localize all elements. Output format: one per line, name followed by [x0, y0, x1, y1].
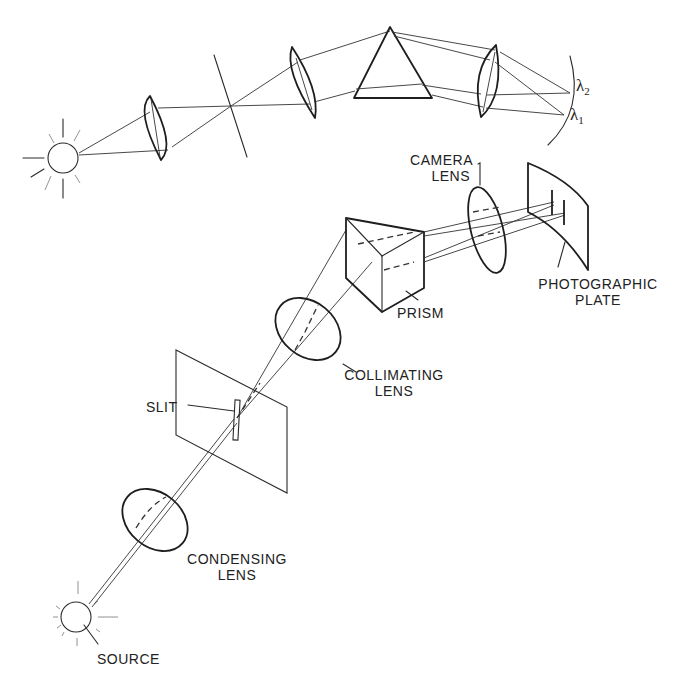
top-source-icon: [23, 119, 80, 198]
perspective-view: [53, 163, 588, 646]
slit-leader: [188, 405, 234, 411]
lambda-1-label: λ1: [570, 105, 584, 126]
collimating-lens: [263, 285, 353, 373]
top-focal-plane: [548, 56, 574, 145]
camera-lens-leader: [478, 163, 480, 185]
top-lens-2: [290, 47, 315, 118]
collimating-lens-label: COLLIMATING LENS: [335, 367, 453, 399]
slit-label: SLIT: [146, 399, 178, 415]
prism: [346, 218, 424, 312]
top-schematic: [23, 27, 574, 198]
photographic-plate-label: PHOTOGRAPHIC PLATE: [534, 276, 662, 308]
plate-leader: [558, 242, 565, 267]
top-prism: [354, 27, 432, 98]
source-icon: [53, 581, 118, 646]
condensing-lens-label: CONDENSING LENS: [183, 551, 291, 583]
prism-label: PRISM: [397, 305, 444, 321]
spectrograph-diagram: λ2 λ1 CAMERA LENS PHOTOGRAPHIC PLATE PRI…: [0, 0, 680, 694]
camera-lens-label: CAMERA LENS: [393, 152, 473, 184]
photographic-plate: [528, 163, 588, 270]
slit: [233, 400, 240, 440]
source-label: SOURCE: [97, 651, 160, 667]
lambda-2-label: λ2: [576, 76, 590, 97]
